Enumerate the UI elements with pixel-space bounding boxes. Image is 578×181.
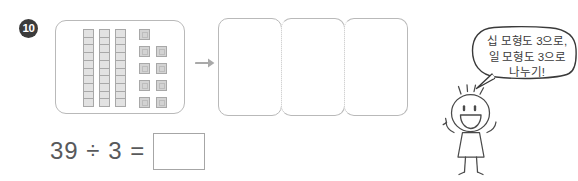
tens-rod-segment	[84, 61, 93, 69]
ones-unit[interactable]	[156, 80, 167, 91]
tens-rod-segment	[84, 92, 93, 100]
base-ten-blocks-group	[83, 29, 167, 107]
tens-rod-segment	[100, 69, 109, 77]
speech-line-2: 일 모형도 3으로	[479, 50, 575, 66]
tens-rod-segment	[100, 99, 109, 106]
ones-unit[interactable]	[156, 63, 167, 74]
tens-rod-segment	[116, 61, 125, 69]
tens-rod-segment	[100, 84, 109, 92]
tens-rod-segment	[100, 76, 109, 84]
speech-bubble-text: 십 모형도 3으로, 일 모형도 3으로 나누기!	[479, 34, 575, 81]
tens-rod-segment	[84, 99, 93, 106]
tens-rod-segment	[116, 84, 125, 92]
tens-rod-segment	[84, 45, 93, 53]
tens-rod-segment	[116, 99, 125, 106]
tens-rod-segment	[84, 53, 93, 61]
tens-rod-segment	[116, 53, 125, 61]
equation-expression: 39 ÷ 3 =	[50, 137, 145, 165]
tens-rod-segment	[84, 38, 93, 46]
tens-rod-segment	[116, 38, 125, 46]
tens-rod[interactable]	[115, 29, 126, 107]
ones-unit[interactable]	[139, 63, 150, 74]
tens-rods-group	[83, 29, 126, 107]
tens-rod-segment	[100, 92, 109, 100]
stick-figure-girl-icon	[441, 84, 503, 178]
tens-rod-segment	[84, 84, 93, 92]
tens-rod[interactable]	[83, 29, 94, 107]
speech-line-3: 나누기!	[479, 65, 575, 81]
tens-rod-segment	[116, 45, 125, 53]
tens-rod-segment	[100, 30, 109, 38]
speech-line-1: 십 모형도 3으로,	[479, 34, 575, 50]
tens-rod-segment	[116, 69, 125, 77]
tens-rod-segment	[84, 69, 93, 77]
equation-row: 39 ÷ 3 =	[50, 128, 205, 174]
tens-rod-segment	[116, 92, 125, 100]
tens-rod-segment	[100, 38, 109, 46]
arrow-right-icon	[195, 55, 215, 71]
destination-group-boxes	[218, 18, 408, 116]
tens-rod-segment	[100, 61, 109, 69]
group-box-2[interactable]	[281, 18, 345, 116]
problem-number-badge: 10	[19, 19, 38, 38]
ones-unit[interactable]	[156, 97, 167, 108]
tens-rod-segment	[84, 76, 93, 84]
tens-rod[interactable]	[99, 29, 110, 107]
ones-unit[interactable]	[139, 29, 150, 40]
speech-bubble: 십 모형도 3으로, 일 모형도 3으로 나누기!	[470, 24, 578, 92]
tens-rod-segment	[116, 30, 125, 38]
ones-unit[interactable]	[139, 97, 150, 108]
source-blocks-panel	[55, 20, 185, 114]
tens-rod-segment	[84, 30, 93, 38]
ones-unit[interactable]	[156, 46, 167, 57]
answer-input-box[interactable]	[153, 133, 205, 170]
ones-unit[interactable]	[139, 46, 150, 57]
tens-rod-segment	[116, 76, 125, 84]
tens-rod-segment	[100, 53, 109, 61]
tens-rod-segment	[100, 45, 109, 53]
group-box-1[interactable]	[218, 18, 282, 116]
ones-units-group	[139, 29, 169, 107]
group-box-3[interactable]	[344, 18, 408, 116]
worksheet-problem-canvas: 10 39 ÷ 3 = 십 모형도 3으로, 일 모형도 3으로	[0, 0, 578, 181]
ones-unit[interactable]	[139, 80, 150, 91]
